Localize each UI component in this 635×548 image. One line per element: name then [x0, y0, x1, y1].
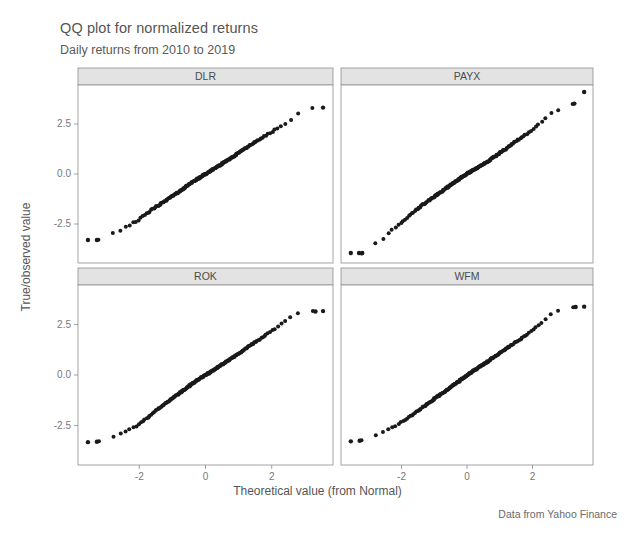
qq-outlier-point	[349, 439, 353, 443]
qq-point	[393, 424, 397, 428]
qq-point	[288, 315, 292, 319]
qq-point	[289, 118, 293, 122]
qq-outlier-point	[349, 251, 353, 255]
qq-outlier-point	[86, 238, 90, 242]
qq-point	[386, 427, 390, 431]
qq-point	[381, 237, 385, 241]
qq-point	[283, 122, 287, 126]
qq-point	[536, 123, 540, 127]
facet-panel-rok: ROK-202-2.50.02.5	[54, 268, 333, 482]
facet-strip-label: WFM	[454, 270, 479, 282]
facet-strip-label: PAYX	[454, 70, 480, 82]
qq-point	[280, 322, 284, 326]
y-tick-label: -2.5	[54, 218, 72, 229]
x-tick-label: 0	[203, 471, 209, 482]
x-tick-label: -2	[135, 471, 144, 482]
y-tick-label: 0.0	[57, 369, 71, 380]
qq-point	[539, 321, 543, 325]
facet-panel-dlr: DLR-2.50.02.5	[54, 68, 333, 263]
qq-point	[124, 429, 128, 433]
qq-point	[279, 124, 283, 128]
y-tick-label: 2.5	[57, 118, 71, 129]
facet-strip-label: DLR	[195, 70, 216, 82]
qq-point	[111, 231, 115, 235]
qq-outlier-point	[321, 309, 325, 313]
qq-outlier-point	[573, 305, 577, 309]
y-tick-label: -2.5	[54, 420, 72, 431]
qq-outlier-point	[95, 238, 99, 242]
qq-point	[549, 312, 553, 316]
qq-plot-figure: QQ plot for normalized returns Daily ret…	[0, 0, 635, 548]
qq-point	[296, 311, 300, 315]
qq-point	[275, 127, 279, 131]
qq-point	[374, 433, 378, 437]
qq-point	[544, 317, 548, 321]
qq-outlier-point	[582, 304, 586, 308]
qq-point	[310, 106, 314, 110]
x-tick-label: -2	[397, 471, 406, 482]
qq-point	[276, 325, 280, 329]
y-axis-title: True/observed value	[19, 177, 33, 337]
qq-outlier-point	[360, 251, 364, 255]
qq-point	[128, 223, 132, 227]
facet-strip-label: ROK	[194, 270, 217, 282]
x-tick-label: 2	[530, 471, 536, 482]
figure-caption: Data from Yahoo Finance	[498, 508, 617, 520]
qq-outlier-point	[572, 101, 576, 105]
qq-point	[119, 432, 123, 436]
qq-point	[556, 309, 560, 313]
x-tick-label: 2	[269, 471, 275, 482]
x-axis-title: Theoretical value (from Normal)	[0, 484, 635, 498]
qq-outlier-point	[313, 309, 317, 313]
qq-point	[387, 231, 391, 235]
qq-outlier-point	[321, 105, 325, 109]
qq-point	[390, 228, 394, 232]
qq-outlier-point	[86, 440, 90, 444]
qq-point	[127, 427, 131, 431]
qq-point	[543, 116, 547, 120]
qq-point	[283, 319, 287, 323]
qq-point	[112, 435, 116, 439]
qq-point	[540, 120, 544, 124]
qq-outlier-point	[582, 90, 586, 94]
qq-point	[273, 327, 277, 331]
qq-point	[296, 111, 300, 115]
qq-outlier-point	[357, 439, 361, 443]
y-tick-label: 0.0	[57, 168, 71, 179]
x-tick-label: 0	[464, 471, 470, 482]
qq-point	[549, 111, 553, 115]
facet-panel-wfm: WFM-202	[341, 268, 593, 482]
qq-point	[124, 225, 128, 229]
qq-point	[381, 430, 385, 434]
qq-point	[373, 241, 377, 245]
qq-point	[556, 108, 560, 112]
y-tick-label: 2.5	[57, 319, 71, 330]
facet-grid: DLR-2.50.02.5PAYXROK-202-2.50.02.5WFM-20…	[0, 0, 635, 548]
qq-point	[118, 229, 122, 233]
facet-panel-payx: PAYX	[341, 68, 593, 263]
qq-outlier-point	[95, 440, 99, 444]
